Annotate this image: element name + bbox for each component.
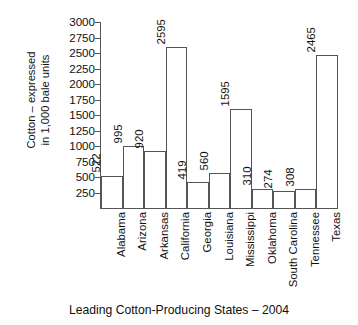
y-axis-tick-label: 250 [76,187,95,199]
y-axis-tick-mark [95,146,100,147]
bar-group: 920 [144,22,166,208]
y-axis-tick-mark [95,177,100,178]
bar [144,151,166,208]
bar [273,191,295,208]
bar-value-label: 2465 [306,27,317,52]
x-axis-category-label: South Carolina [288,212,299,287]
bar-chart: Cotton – expressed in 1,000 bale units 2… [0,0,358,325]
x-axis-line [100,208,338,209]
y-axis-tick-label: 500 [76,171,95,183]
y-axis-title-line-2: in 1,000 bale units [38,55,52,146]
y-axis-tick-label: 2250 [69,63,95,75]
bar [166,47,188,208]
plot-area: 522995920259541956015953102743082465 [100,22,338,208]
bar-value-label: 310 [241,167,252,186]
bar [230,109,252,208]
y-axis-tick-mark [95,69,100,70]
bar-value-label: 995 [112,124,123,143]
y-axis-tick-label: 3000 [69,16,95,28]
bar-value-label: 920 [134,129,145,148]
x-axis-category-label: Texas [331,212,342,242]
y-axis-tick-label: 1750 [69,94,95,106]
bar-group: 2465 [316,22,338,208]
bar-value-label: 1595 [220,81,231,106]
x-axis-category-label: Louisiana [224,212,235,261]
x-axis-category-labels: AlabamaArizonaArkansasCaliforniaGeorgiaL… [101,212,338,298]
bar-value-label: 274 [263,169,274,188]
y-axis-tick-label: 1500 [69,109,95,121]
y-axis-tick-mark [95,193,100,194]
bar-value-label: 308 [285,167,296,186]
y-axis-tick-label: 1000 [69,140,95,152]
x-axis-category-label: Georgia [202,212,213,253]
x-axis-category-label: Alabama [116,212,127,257]
y-axis-tick-mark [95,38,100,39]
x-axis-category-label: Arizona [137,212,148,251]
x-axis-category-label: Arkansas [159,212,170,259]
bar [295,189,317,208]
bar-value-label: 560 [198,151,209,170]
y-axis-tick-label: 2500 [69,47,95,59]
x-axis-category-label: California [180,212,191,260]
bar-value-label: 2595 [155,19,166,44]
bar-group: 560 [209,22,231,208]
y-axis-tick-mark [95,100,100,101]
x-axis-category-label: Tennessee [310,212,321,267]
y-axis-tick-mark [95,22,100,23]
bar [209,173,231,208]
y-axis-tick-label: 1250 [69,125,95,137]
bar-value-label: 419 [177,160,188,179]
y-axis-tick-mark [95,53,100,54]
bar [252,189,274,208]
bar-value-label: 522 [91,154,102,173]
y-axis-title-line-1: Cotton – expressed [24,51,38,148]
y-axis-tick-label: 2750 [69,32,95,44]
bar-group: 995 [123,22,145,208]
bar-group: 522 [101,22,123,208]
bar [101,176,123,208]
x-axis-category-label: Mississippi [245,212,256,267]
bar [187,182,209,208]
x-axis-title: Leading Cotton-Producing States – 2004 [0,303,358,317]
y-axis-tick-mark [95,131,100,132]
y-axis-tick-mark [95,84,100,85]
bar [316,55,338,208]
bar-group: 2595 [166,22,188,208]
bar-group: 419 [187,22,209,208]
y-axis-title: Cotton – expressed in 1,000 bale units [16,10,60,190]
x-axis-category-label: Oklahoma [267,212,278,264]
bars-layer: 522995920259541956015953102743082465 [101,22,338,208]
bar [123,146,145,208]
y-axis-tick-mark [95,115,100,116]
y-axis-tick-label: 2000 [69,78,95,90]
